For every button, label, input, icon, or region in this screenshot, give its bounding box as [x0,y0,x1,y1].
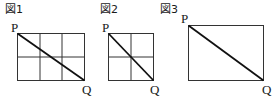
figure-2-point-p: P [102,21,109,34]
figure-2-point-q: Q [150,83,159,96]
figure-3-diagonal-pq [189,26,264,81]
figure-3-point-q: Q [262,83,271,96]
figure-1-point-q: Q [82,83,91,96]
figure-1-point-p: P [11,21,18,34]
figure-3-point-p: P [181,12,188,25]
diagram-canvas [0,0,275,98]
